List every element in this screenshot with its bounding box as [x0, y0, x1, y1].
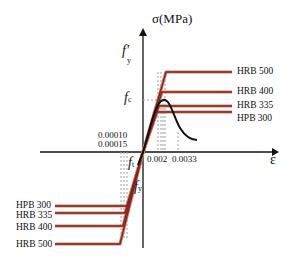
x-axis-label: ε: [270, 153, 276, 167]
strain-tick-0.0033: 0.0033: [172, 155, 197, 164]
grade-label-tension: HRB 500: [16, 240, 52, 250]
grade-label-compression: HRB 400: [237, 87, 273, 97]
grade-label-tension: HRB 400: [16, 223, 52, 233]
strain-tick-0.00015: 0.00015: [98, 140, 127, 149]
grade-label-compression: HRB 500: [237, 67, 273, 77]
fy-prime-symbol: f' y: [122, 44, 129, 72]
compression-steel-curves: [143, 72, 232, 152]
grade-label-tension: HRB 335: [16, 211, 52, 221]
fy-symbol: fy: [134, 180, 142, 194]
strain-tick-0.002: 0.002: [147, 155, 167, 164]
y-axis-arrow-icon: [139, 28, 147, 36]
grade-label-compression: HPB 300: [237, 114, 272, 124]
y-axis-label: σ(MPa): [152, 12, 192, 25]
ft-symbol: ft: [128, 156, 134, 170]
grade-label-compression: HRB 335: [237, 101, 273, 111]
fc-symbol: fc: [124, 91, 131, 105]
